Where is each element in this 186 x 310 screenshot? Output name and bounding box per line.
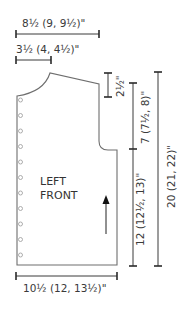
piece-label-line2: FRONT xyxy=(40,189,78,202)
armhole-depth-label: 7 (7½, 8)" xyxy=(139,91,151,144)
total-length-label: 20 (21, 22)" xyxy=(165,145,177,208)
button-icon xyxy=(19,222,23,226)
armhole-depth-dimension: 7 (7½, 8)" xyxy=(129,83,151,149)
piece-label: LEFT FRONT xyxy=(40,175,78,202)
total-length-dimension: 20 (21, 22)" xyxy=(154,72,177,266)
neck-width-label: 3½ (4, 4½)" xyxy=(16,43,79,55)
buttons xyxy=(19,98,23,257)
shoulder-slope-label: 2½" xyxy=(114,75,126,97)
button-icon xyxy=(19,160,23,164)
left-front-outline xyxy=(17,73,117,265)
bottom-width-label: 10½ (12, 13½)" xyxy=(23,282,106,294)
neck-width-dimension: 3½ (4, 4½)" xyxy=(16,43,79,64)
button-icon xyxy=(19,114,23,118)
button-icon xyxy=(19,145,23,149)
side-length-label: 12 (12½, 13)" xyxy=(134,173,146,246)
bottom-width-dimension: 10½ (12, 13½)" xyxy=(16,272,117,294)
left-front-schematic: 8½ (9, 9½)" 3½ (4, 4½)" LEFT FRONT xyxy=(0,0,186,310)
shoulder-slope-dimension: 2½" xyxy=(104,73,126,97)
button-icon xyxy=(19,253,23,257)
button-icon xyxy=(19,176,23,180)
side-length-dimension: 12 (12½, 13)" xyxy=(129,149,146,266)
grainline-arrow-icon xyxy=(103,195,110,234)
button-icon xyxy=(19,238,23,242)
shoulder-width-label: 8½ (9, 9½)" xyxy=(22,17,85,29)
shoulder-width-dimension: 8½ (9, 9½)" xyxy=(16,17,99,38)
piece-label-line1: LEFT xyxy=(40,175,66,188)
button-icon xyxy=(19,129,23,133)
button-icon xyxy=(19,191,23,195)
button-icon xyxy=(19,98,23,102)
button-icon xyxy=(19,207,23,211)
